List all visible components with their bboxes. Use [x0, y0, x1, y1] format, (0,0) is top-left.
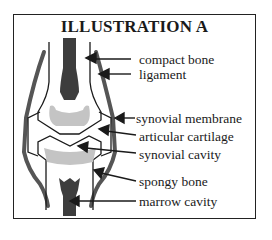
label-articular-cartilage: articular cartilage [139, 130, 234, 144]
spongy-bone-lower [44, 148, 96, 165]
label-marrow-cavity: marrow cavity [139, 195, 217, 209]
label-synovial-cavity: synovial cavity [139, 148, 221, 162]
spongy-bone-upper [49, 106, 90, 127]
label-spongy-bone: spongy bone [139, 175, 208, 189]
label-compact-bone: compact bone [139, 53, 214, 67]
label-synovial-membrane: synovial membrane [136, 112, 242, 126]
leader-arrows [70, 53, 136, 206]
label-ligament: ligament [139, 68, 186, 82]
compact-bone-shape [60, 38, 79, 100]
